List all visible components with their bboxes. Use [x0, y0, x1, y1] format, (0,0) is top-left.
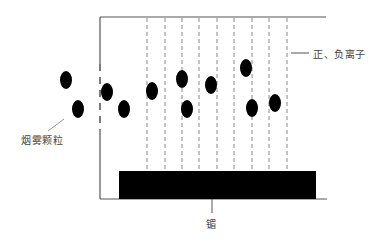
smoke-particle — [146, 82, 158, 100]
americium-label: 镅 — [206, 216, 217, 231]
smoke-particles-label: 烟雾颗粒 — [21, 132, 63, 147]
smoke-particle — [60, 71, 72, 89]
smoke-particle — [269, 94, 281, 112]
ions-label: 正、负离子 — [313, 46, 366, 61]
smoke-particle — [72, 100, 84, 118]
smoke-particle — [176, 70, 188, 88]
americium-source-block — [119, 171, 316, 199]
smoke-particle — [181, 100, 193, 118]
smoke-particle — [101, 83, 113, 101]
smoke-particle — [246, 99, 258, 117]
smoke-particles — [60, 59, 281, 118]
ion-paths — [147, 18, 287, 171]
smoke-particle — [118, 100, 130, 118]
smoke-particle — [240, 59, 252, 77]
smoke-detector-diagram — [0, 0, 380, 242]
smoke-particle — [205, 76, 217, 94]
smoke-particles-leader-line — [48, 119, 64, 131]
